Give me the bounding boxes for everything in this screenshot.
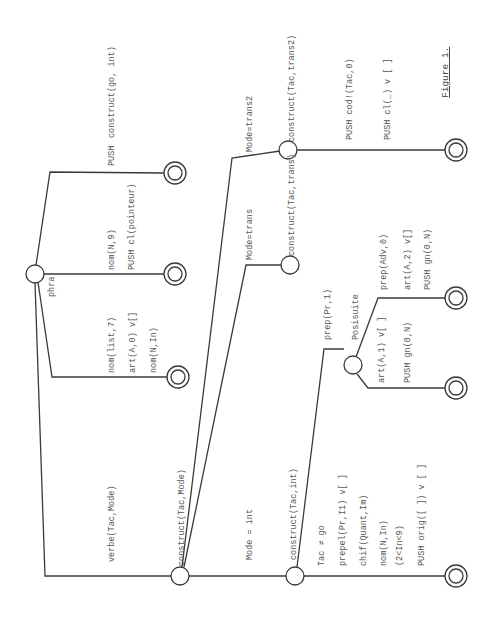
label-phra3-line2: art(A,0) v[]	[128, 312, 138, 373]
label-int-final-line4: nom(N,In)	[379, 520, 389, 566]
final-node-1	[164, 162, 186, 184]
transition-network-diagram: phra construct(Tac,Mode) construct(Tac,i…	[0, 0, 493, 620]
final-node-posi-2	[445, 377, 467, 399]
label-construct-trans: construct(Tac,trans)	[287, 154, 297, 256]
label-mode-trans2: Mode=trans2	[245, 96, 255, 152]
label-int-final-line2: prepel(Pr,I1) v[ ]	[338, 474, 348, 566]
label-posi1-line3: PUSH gn(0,N)	[423, 229, 433, 290]
final-node-2	[164, 263, 186, 285]
final-node-trans2	[445, 139, 467, 161]
edge-posisuite-to-final-1	[356, 298, 446, 357]
label-phra1-construct: construct(go, int)	[107, 46, 117, 138]
label-int-final-line5: (2<In<9)	[395, 525, 405, 566]
label-construct-mode: construct(Tac,Mode)	[177, 469, 187, 566]
label-construct-trans2: construct(Tac,trans2)	[287, 35, 297, 142]
label-int-prep: prep(Pr,1)	[323, 289, 333, 340]
figure-caption: Figure 1.	[440, 47, 451, 98]
label-posisuite: Posisuite	[351, 294, 361, 340]
label-trans2-line2: PUSH cl(_) v [ ]	[383, 58, 393, 140]
label-phra: phra	[47, 277, 57, 297]
label-construct-int: construct(Tac,int)	[289, 468, 299, 560]
node-construct-mode	[171, 567, 189, 585]
label-posi1-line2: art(A,2) v[]	[403, 229, 413, 290]
label-phra2-line2: PUSH cl(pointeur)	[127, 183, 137, 270]
label-phra3-line1: nom(list,7)	[107, 317, 117, 373]
node-construct-int	[286, 567, 304, 585]
final-node-int	[445, 565, 467, 587]
edge-posisuite-to-final-2	[357, 374, 446, 388]
label-int-final-line6: PUSH orig([ ]) v [ ]	[417, 464, 427, 566]
label-int-final-line3: chif(Quant,Im)	[359, 495, 369, 566]
edge-phra-to-construct-mode	[35, 283, 171, 576]
node-phra	[26, 265, 44, 283]
label-verbe: verbe(Tac,Mode)	[107, 485, 117, 562]
label-mode-int: Mode = int	[245, 509, 255, 560]
label-posi1-line1: prep(Adv,0)	[379, 234, 389, 290]
final-node-posi-1	[445, 287, 467, 309]
label-trans2-line1: PUSH cod!(Tac,0)	[345, 58, 355, 140]
label-mode-trans: Mode=trans	[245, 209, 255, 260]
label-posi2-line2: PUSH gn(0,N)	[403, 322, 413, 383]
node-posisuite	[344, 356, 362, 374]
label-phra2-line1: nom(N,9)	[107, 229, 117, 270]
node-construct-trans	[281, 256, 299, 274]
label-phra1-push: PUSH	[107, 146, 117, 166]
label-int-final-line1: Tac ≠ go	[317, 525, 327, 566]
edge-phra-to-final-1	[35, 172, 165, 272]
label-posi2-line1: art(A,1) v[ ]	[377, 317, 387, 383]
final-node-3	[167, 366, 189, 388]
edge-mode-to-trans	[184, 265, 281, 567]
label-phra3-line3: nom(N,In)	[149, 327, 159, 373]
